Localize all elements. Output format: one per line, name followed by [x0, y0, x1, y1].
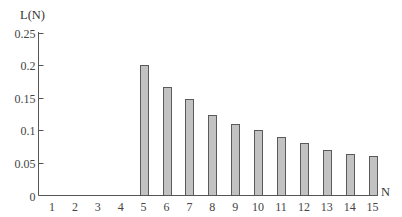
x-tick-label: 5 [141, 200, 147, 214]
bar-chart: L(N) N 00.050.10.150.20.25 1234567891011… [0, 0, 402, 217]
x-tick-label: 15 [367, 200, 379, 214]
bar-9 [232, 125, 240, 196]
x-tick-label: 4 [118, 200, 124, 214]
bar-13 [324, 151, 332, 196]
x-tick-label: 3 [95, 200, 101, 214]
x-tick-label: 13 [321, 200, 333, 214]
bar-7 [186, 100, 194, 196]
x-tick-label: 6 [164, 200, 170, 214]
bar-15 [370, 157, 378, 196]
bar-14 [347, 155, 355, 196]
y-tick-label: 0.1 [21, 124, 36, 138]
x-axis-ticks: 123456789101112131415 [49, 200, 379, 214]
y-tick-label: 0.05 [15, 157, 36, 171]
x-tick-label: 10 [252, 200, 264, 214]
bar-8 [209, 116, 217, 196]
x-tick-label: 9 [232, 200, 238, 214]
y-tick-label: 0 [30, 190, 36, 204]
axes [39, 32, 373, 196]
x-tick-label: 8 [209, 200, 215, 214]
bar-11 [278, 138, 286, 196]
y-axis-title: L(N) [20, 8, 45, 22]
x-tick-label: 14 [344, 200, 356, 214]
y-tick-label: 0.2 [21, 59, 36, 73]
x-tick-label: 11 [275, 200, 287, 214]
bar-12 [301, 144, 309, 196]
x-axis-title: N [381, 185, 390, 199]
bar-6 [164, 88, 172, 196]
y-tick-label: 0.25 [15, 27, 36, 41]
x-tick-label: 12 [298, 200, 310, 214]
y-tick-label: 0.15 [15, 92, 36, 106]
bars [141, 66, 378, 196]
x-tick-label: 2 [72, 200, 78, 214]
bar-10 [255, 131, 263, 196]
x-tick-label: 7 [186, 200, 192, 214]
bar-5 [141, 66, 149, 196]
x-tick-label: 1 [49, 200, 55, 214]
y-axis-ticks: 00.050.10.150.20.25 [15, 27, 44, 204]
